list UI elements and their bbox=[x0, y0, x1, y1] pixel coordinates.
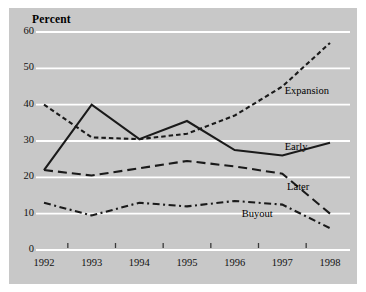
chart-figure: Percent 0102030405060 199219931994199519… bbox=[0, 0, 366, 292]
x-tick-label: 1998 bbox=[310, 257, 350, 268]
y-tick-label: 30 bbox=[12, 134, 34, 145]
series-lines-group bbox=[44, 43, 330, 228]
line-chart-canvas bbox=[0, 0, 366, 292]
y-tick-label: 40 bbox=[12, 98, 34, 109]
series-label-expansion: Expansion bbox=[285, 85, 329, 96]
y-tick-label: 10 bbox=[12, 207, 34, 218]
series-line-buyout bbox=[44, 201, 330, 228]
y-tick-label: 0 bbox=[12, 243, 34, 254]
x-tick-label: 1997 bbox=[262, 257, 302, 268]
x-tick-label: 1992 bbox=[24, 257, 64, 268]
x-tick-label: 1996 bbox=[215, 257, 255, 268]
y-tick-label: 20 bbox=[12, 170, 34, 181]
series-label-early: Early bbox=[285, 141, 308, 152]
series-label-later: Later bbox=[287, 181, 309, 192]
x-axis-ticks-group bbox=[68, 243, 306, 248]
x-tick-label: 1994 bbox=[119, 257, 159, 268]
y-tick-label: 50 bbox=[12, 61, 34, 72]
y-tick-label: 60 bbox=[12, 25, 34, 36]
x-tick-label: 1995 bbox=[167, 257, 207, 268]
series-label-buyout: Buyout bbox=[242, 208, 273, 219]
x-tick-label: 1993 bbox=[72, 257, 112, 268]
